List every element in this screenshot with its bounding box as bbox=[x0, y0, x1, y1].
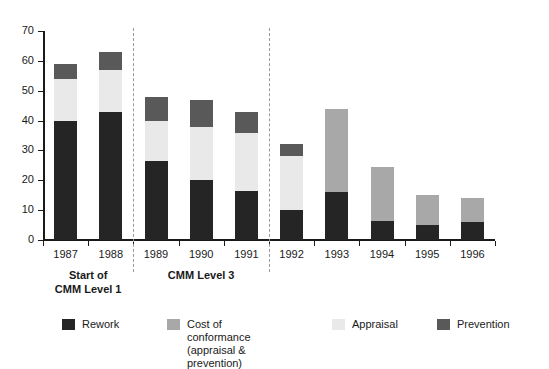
legend-swatch-icon bbox=[332, 319, 345, 330]
bar-segment-1990-rework bbox=[190, 180, 213, 240]
bar-segment-1989-prevention bbox=[145, 97, 168, 121]
bar-segment-1996-rework bbox=[461, 222, 484, 240]
bar-segment-1988-appraisal bbox=[99, 70, 122, 112]
legend-label: Cost of conformance (appraisal & prevent… bbox=[187, 318, 251, 369]
x-tick-mark bbox=[179, 241, 180, 246]
x-tick-mark bbox=[450, 241, 451, 246]
bar-segment-1989-appraisal bbox=[145, 121, 168, 161]
bar-1996 bbox=[461, 31, 484, 240]
x-tick-label-1996: 1996 bbox=[450, 248, 494, 260]
bar-segment-1993-rework bbox=[325, 192, 348, 240]
x-tick-label-1991: 1991 bbox=[224, 248, 268, 260]
y-tick-label: 20 bbox=[4, 174, 34, 185]
bar-1992 bbox=[280, 31, 303, 240]
legend-swatch-icon bbox=[167, 319, 180, 330]
chart-legend: ReworkCost of conformance (appraisal & p… bbox=[62, 318, 532, 358]
x-tick-label-1988: 1988 bbox=[89, 248, 133, 260]
bar-segment-1990-prevention bbox=[190, 100, 213, 127]
legend-swatch-icon bbox=[437, 319, 450, 330]
bar-segment-1995-rework bbox=[416, 225, 439, 240]
y-tick-label: 50 bbox=[4, 85, 34, 96]
bar-segment-1990-appraisal bbox=[190, 127, 213, 181]
stacked-bar-chart: 010203040506070 198719881989199019911992… bbox=[0, 0, 549, 369]
bar-1993 bbox=[325, 31, 348, 240]
separator-after-1991 bbox=[269, 28, 270, 272]
x-tick-mark bbox=[224, 241, 225, 246]
bar-segment-1989-rework bbox=[145, 161, 168, 240]
x-tick-label-1993: 1993 bbox=[315, 248, 359, 260]
bar-segment-1988-rework bbox=[99, 112, 122, 240]
bar-segment-1987-appraisal bbox=[54, 79, 77, 121]
x-tick-label-1995: 1995 bbox=[405, 248, 449, 260]
separator-after-1988 bbox=[133, 28, 134, 272]
bar-segment-1992-prevention bbox=[280, 144, 303, 156]
legend-swatch-icon bbox=[62, 319, 75, 330]
y-tick-label: 30 bbox=[4, 144, 34, 155]
bar-segment-1993-cost bbox=[325, 109, 348, 193]
x-tick-mark bbox=[88, 241, 89, 246]
bar-segment-1995-cost bbox=[416, 195, 439, 225]
bar-1994 bbox=[371, 31, 394, 240]
bar-1989 bbox=[145, 31, 168, 240]
x-tick-mark bbox=[43, 241, 44, 246]
group-label-2: CMM Level 3 bbox=[121, 268, 281, 282]
bar-1991 bbox=[235, 31, 258, 240]
x-tick-mark bbox=[405, 241, 406, 246]
x-tick-label-1994: 1994 bbox=[360, 248, 404, 260]
legend-label: Appraisal bbox=[352, 318, 398, 331]
bar-segment-1992-rework bbox=[280, 210, 303, 240]
x-tick-label-1987: 1987 bbox=[44, 248, 88, 260]
x-tick-mark bbox=[495, 241, 496, 246]
x-tick-mark bbox=[314, 241, 315, 246]
bar-segment-1988-prevention bbox=[99, 52, 122, 70]
bar-segment-1991-prevention bbox=[235, 112, 258, 133]
bar-segment-1991-appraisal bbox=[235, 133, 258, 191]
bar-1987 bbox=[54, 31, 77, 240]
y-tick-label: 40 bbox=[4, 115, 34, 126]
y-tick-label: 0 bbox=[4, 234, 34, 245]
y-tick-label: 10 bbox=[4, 204, 34, 215]
x-tick-mark bbox=[359, 241, 360, 246]
legend-label: Prevention bbox=[457, 318, 510, 331]
x-tick-label-1989: 1989 bbox=[134, 248, 178, 260]
bar-segment-1992-appraisal bbox=[280, 156, 303, 210]
bar-segment-1991-rework bbox=[235, 191, 258, 240]
bar-1988 bbox=[99, 31, 122, 240]
bar-1995 bbox=[416, 31, 439, 240]
bar-segment-1987-prevention bbox=[54, 64, 77, 79]
legend-label: Rework bbox=[82, 318, 119, 331]
y-tick-label: 70 bbox=[4, 25, 34, 36]
y-tick-label: 60 bbox=[4, 55, 34, 66]
bar-segment-1994-rework bbox=[371, 221, 394, 240]
x-tick-label-1990: 1990 bbox=[179, 248, 223, 260]
x-tick-label-1992: 1992 bbox=[270, 248, 314, 260]
bar-segment-1987-rework bbox=[54, 121, 77, 240]
bar-segment-1994-cost bbox=[371, 167, 394, 221]
bar-segment-1996-cost bbox=[461, 198, 484, 222]
bar-1990 bbox=[190, 31, 213, 240]
